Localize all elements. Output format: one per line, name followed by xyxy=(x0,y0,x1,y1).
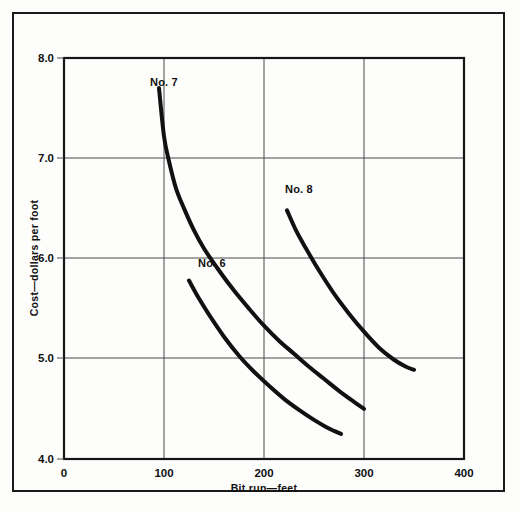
y-tick-label-6: 6.0 xyxy=(38,252,54,264)
y-tick-label-8: 8.0 xyxy=(38,52,54,64)
figure-caption-partial xyxy=(0,503,520,512)
x-tick-label-200: 200 xyxy=(254,467,273,479)
chart-svg: 8.0 7.0 6.0 5.0 4.0 0 100 200 300 400 Bi… xyxy=(0,0,520,512)
series-label-no-7: No. 7 xyxy=(150,76,178,88)
x-axis-title: Bit run—feet xyxy=(231,482,298,494)
figure-container: 8.0 7.0 6.0 5.0 4.0 0 100 200 300 400 Bi… xyxy=(0,0,520,512)
series-annotations: No. 7 No. 6 No. 8 xyxy=(150,76,313,268)
y-tick-label-7: 7.0 xyxy=(38,152,54,164)
x-tick-label-0: 0 xyxy=(61,467,67,479)
series-label-no-6: No. 6 xyxy=(198,257,226,269)
x-tick-label-400: 400 xyxy=(454,467,473,479)
y-tick-label-4: 4.0 xyxy=(38,453,54,465)
y-tick-label-5: 5.0 xyxy=(38,352,54,364)
series-line-no-6 xyxy=(189,281,341,434)
series-label-no-8: No. 8 xyxy=(285,183,313,195)
x-tick-label-100: 100 xyxy=(154,467,173,479)
y-axis-title: Cost—dollars per foot xyxy=(28,200,40,317)
x-tick-label-300: 300 xyxy=(354,467,373,479)
series-line-no-7 xyxy=(159,88,364,409)
series-line-no-8 xyxy=(287,210,414,369)
